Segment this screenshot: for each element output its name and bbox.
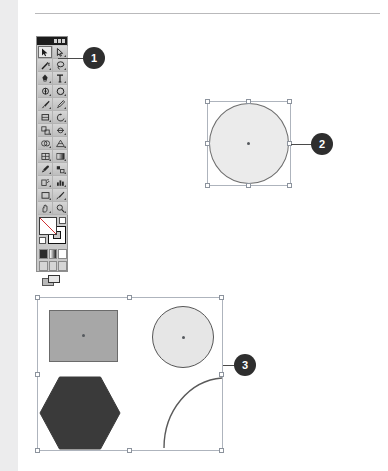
group-handle-top-left[interactable] — [35, 295, 40, 300]
handle-top-center[interactable] — [246, 99, 251, 104]
tool-pencil-tool[interactable] — [53, 98, 68, 111]
tool-magic-wand-tool[interactable] — [38, 59, 53, 72]
circle-center-point-2 — [182, 336, 185, 339]
tool-ellipse-tool[interactable] — [53, 85, 68, 98]
screen-mode-front-icon — [48, 275, 60, 283]
tool-width-tool[interactable] — [53, 124, 68, 137]
handle-top-left[interactable] — [205, 99, 210, 104]
fill-swatch[interactable] — [39, 217, 57, 235]
callout-badge-1: 1 — [83, 47, 105, 69]
dark-hexagon[interactable] — [39, 376, 121, 450]
group-selection-bounds[interactable] — [37, 297, 223, 451]
tool-lasso-tool[interactable] — [53, 59, 68, 72]
group-handle-bottom-left[interactable] — [35, 448, 40, 453]
tool-rotate-tool[interactable] — [53, 111, 68, 124]
tool-selection-tool[interactable] — [38, 46, 53, 59]
circle-selection-bounds[interactable] — [207, 101, 291, 186]
tool-gradient-tool[interactable] — [53, 150, 68, 163]
tool-hand-tool[interactable] — [38, 202, 53, 215]
tool-eraser-tool[interactable] — [38, 111, 53, 124]
fill-stroke-swatches[interactable] — [39, 217, 67, 245]
tool-artboard-tool[interactable] — [38, 189, 53, 202]
group-handle-bottom-right[interactable] — [219, 448, 224, 453]
draw-normal-button[interactable] — [39, 261, 48, 271]
quarter-arc[interactable] — [158, 374, 226, 452]
group-handle-middle-left[interactable] — [35, 372, 40, 377]
tool-shape-builder-tool[interactable] — [38, 137, 53, 150]
group-handle-middle-right[interactable] — [219, 372, 224, 377]
group-handle-bottom-center[interactable] — [127, 448, 132, 453]
tool-scale-tool[interactable] — [38, 124, 53, 137]
callout-1-leader — [58, 58, 86, 59]
group-handle-top-right[interactable] — [219, 295, 224, 300]
change-screen-mode-button[interactable] — [42, 275, 64, 286]
top-divider-rule — [35, 13, 380, 14]
tool-blend-tool[interactable] — [53, 163, 68, 176]
titlebar-controls[interactable] — [54, 39, 65, 43]
tools-panel[interactable] — [36, 36, 68, 272]
default-fill-stroke-icon[interactable] — [39, 237, 46, 244]
callout-badge-2: 2 — [311, 133, 333, 155]
none-mode-button[interactable] — [58, 249, 67, 259]
rectangle-center-point — [82, 334, 85, 337]
tools-panel-titlebar[interactable] — [37, 37, 67, 45]
callout-2-leader — [291, 144, 313, 145]
callout-badge-3: 3 — [234, 354, 256, 376]
tool-column-graph-tool[interactable] — [53, 176, 68, 189]
tool-slice-tool[interactable] — [53, 189, 68, 202]
tool-symbol-sprayer-tool[interactable] — [38, 176, 53, 189]
handle-bottom-right[interactable] — [287, 183, 292, 188]
tools-grid[interactable] — [38, 46, 68, 215]
draw-behind-button[interactable] — [49, 261, 58, 271]
tool-type-tool[interactable] — [53, 72, 68, 85]
handle-bottom-left[interactable] — [205, 183, 210, 188]
handle-middle-left[interactable] — [205, 141, 210, 146]
page-gutter — [0, 0, 18, 471]
tool-perspective-grid-tool[interactable] — [53, 137, 68, 150]
page-canvas: 1 2 — [0, 0, 388, 471]
tool-eyedropper-tool[interactable] — [38, 163, 53, 176]
color-mode-button[interactable] — [39, 249, 48, 259]
drawing-mode-row[interactable] — [39, 261, 67, 271]
handle-bottom-center[interactable] — [246, 183, 251, 188]
tool-pen-tool[interactable] — [38, 72, 53, 85]
circle-center-point — [247, 142, 250, 145]
paint-mode-row[interactable] — [39, 249, 67, 259]
gradient-mode-button[interactable] — [49, 249, 58, 259]
tool-line-segment-tool[interactable] — [38, 85, 53, 98]
draw-inside-button[interactable] — [58, 261, 67, 271]
group-handle-top-center[interactable] — [127, 295, 132, 300]
tool-paintbrush-tool[interactable] — [38, 98, 53, 111]
tool-mesh-tool[interactable] — [38, 150, 53, 163]
swap-fill-stroke-icon[interactable] — [59, 217, 66, 224]
tool-zoom-tool[interactable] — [53, 202, 68, 215]
handle-top-right[interactable] — [287, 99, 292, 104]
